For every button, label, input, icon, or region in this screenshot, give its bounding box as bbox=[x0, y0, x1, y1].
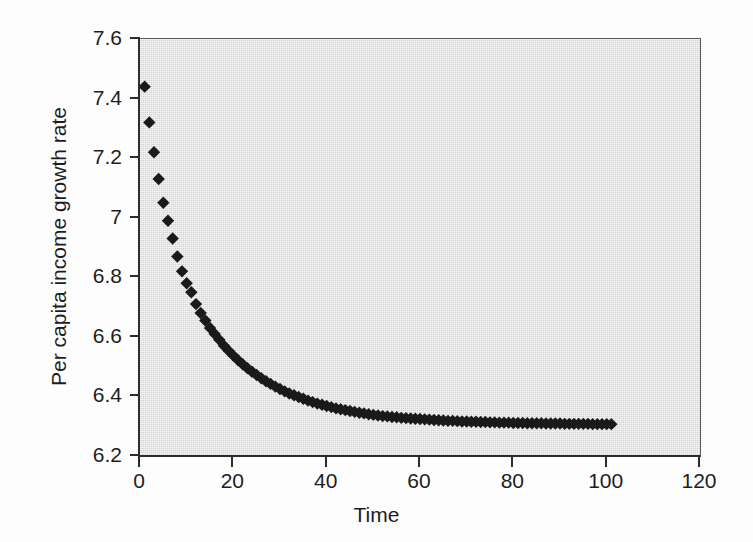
data-point-marker bbox=[162, 214, 174, 226]
y-axis-tick-label-text: 6.6 bbox=[93, 325, 122, 346]
data-point-marker bbox=[140, 80, 151, 92]
y-axis-title: Per capita income growth rate bbox=[44, 38, 74, 455]
x-axis-tick-label: 40 bbox=[314, 470, 337, 491]
x-axis-tick-label: 100 bbox=[588, 470, 623, 491]
x-axis-tick-label: 120 bbox=[681, 470, 716, 491]
y-axis-tick-label-text: 6.8 bbox=[93, 265, 122, 286]
data-point-marker bbox=[148, 146, 160, 158]
x-axis-tick bbox=[138, 457, 140, 467]
plot-area bbox=[139, 38, 701, 457]
scatter-data-layer bbox=[140, 39, 700, 456]
y-axis-tick bbox=[130, 454, 139, 456]
data-point-marker bbox=[143, 116, 155, 128]
x-axis-tick bbox=[231, 457, 233, 467]
y-axis-tick-label-text: 7.4 bbox=[93, 87, 122, 108]
x-axis-tick bbox=[418, 457, 420, 467]
x-axis-tick-label: 20 bbox=[221, 470, 244, 491]
x-axis-tick bbox=[605, 457, 607, 467]
y-axis-tick-label-text: 7.2 bbox=[93, 146, 122, 167]
chart-figure: 6.26.46.66.877.27.47.6 020406080100120 P… bbox=[0, 0, 753, 542]
y-axis-tick bbox=[130, 97, 139, 99]
x-axis-tick bbox=[698, 457, 700, 467]
data-point-marker bbox=[171, 250, 183, 262]
y-axis-tick bbox=[130, 335, 139, 337]
data-point-marker bbox=[176, 265, 188, 277]
y-axis-tick bbox=[130, 156, 139, 158]
y-axis-tick-label-text: 7.6 bbox=[93, 27, 122, 48]
x-axis-tick-label: 0 bbox=[133, 470, 145, 491]
data-point-marker bbox=[152, 173, 164, 185]
y-axis-tick bbox=[130, 275, 139, 277]
x-axis-tick bbox=[511, 457, 513, 467]
y-axis-tick bbox=[130, 216, 139, 218]
y-axis-tick bbox=[130, 394, 139, 396]
y-axis-tick-label-text: 7 bbox=[110, 206, 122, 227]
x-axis-title: Time bbox=[0, 503, 753, 527]
x-axis-tick bbox=[325, 457, 327, 467]
x-axis-tick-label: 60 bbox=[407, 470, 430, 491]
data-point-marker bbox=[166, 232, 178, 244]
y-axis-tick bbox=[130, 37, 139, 39]
data-point-marker bbox=[157, 197, 169, 209]
y-axis-tick-label-text: 6.2 bbox=[93, 444, 122, 465]
y-axis-tick-label-text: 6.4 bbox=[93, 384, 122, 405]
x-axis-tick-label: 80 bbox=[501, 470, 524, 491]
